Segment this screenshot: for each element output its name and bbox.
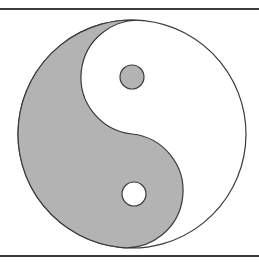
yang-dot-icon (122, 182, 146, 206)
yin-yang-diagram (0, 0, 259, 265)
yin-dot-icon (120, 65, 144, 89)
